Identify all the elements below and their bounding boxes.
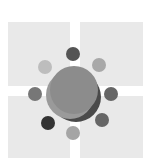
circle-bottom: [66, 126, 80, 140]
circle-bottom-left: [41, 116, 55, 130]
circle-cluster-graphic: [0, 0, 156, 163]
circle-top: [66, 47, 80, 61]
center-circle-2: [50, 66, 98, 114]
circle-right: [104, 87, 118, 101]
circle-top-left: [38, 60, 52, 74]
circle-bottom-right: [95, 113, 109, 127]
circle-top-right: [92, 58, 106, 72]
circle-left: [28, 87, 42, 101]
